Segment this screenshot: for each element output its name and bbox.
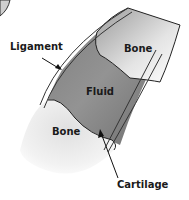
joint-diagram [0, 0, 189, 200]
label-fluid: Fluid [86, 86, 114, 97]
corner-fragment [0, 0, 10, 16]
label-ligament: Ligament [10, 41, 63, 52]
label-bone-top: Bone [124, 43, 152, 54]
label-bone-bottom: Bone [52, 126, 80, 137]
label-cartilage: Cartilage [117, 179, 168, 190]
